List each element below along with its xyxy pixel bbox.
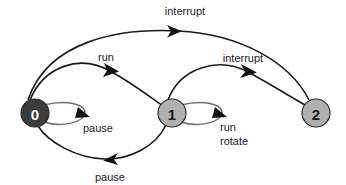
state-node-1[interactable]: 1 [158,99,186,127]
transition-1-to-2-interrupt: interrupt [168,52,305,105]
edge-label-0-self-pause: pause [83,122,113,134]
transition-0-to-1-run: run [30,51,163,106]
state-node-0-label: 0 [31,106,39,123]
edge-label-1-self-rotate: rotate [220,135,248,147]
edge-label-1-to-0-pause: pause [95,171,125,183]
edge-label-0-to-2-interrupt: interrupt [165,5,205,17]
arrowhead-1-self-loop [212,107,227,118]
edge-label-1-self-run: run [220,121,236,133]
state-node-1-label: 1 [168,106,176,123]
state-diagram-canvas: interrupt run interrupt pause run rotate [0,0,346,185]
edge-label-1-to-2-interrupt: interrupt [223,52,263,64]
arrowhead-0-self-loop [75,107,90,118]
edge-path-0-to-1 [30,63,163,106]
transition-1-to-1-run-rotate: run rotate [181,103,248,147]
state-node-2[interactable]: 2 [302,99,330,127]
transition-0-to-0-pause: pause [44,103,113,134]
edge-path-1-to-2 [168,65,305,105]
transition-0-to-2-interrupt: interrupt [28,5,309,100]
state-diagram: interrupt run interrupt pause run rotate [0,0,346,185]
edge-label-0-to-1-run: run [98,51,114,63]
state-node-0[interactable]: 0 [21,99,49,127]
state-node-2-label: 2 [312,106,320,123]
